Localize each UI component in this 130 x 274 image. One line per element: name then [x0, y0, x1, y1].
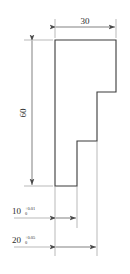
extension-lines — [14, 19, 116, 256]
engineering-drawing: 30 60 10 +0.01 0 20 +0.05 0 — [0, 0, 130, 274]
dim-tolerance-10-upper: +0.01 — [25, 206, 35, 211]
dim-label-20-group: 20 +0.05 0 — [12, 235, 36, 246]
dimension-lines — [32, 27, 115, 247]
dim-label-30: 30 — [81, 16, 91, 26]
dim-label-10-group: 10 +0.01 0 — [12, 206, 35, 217]
part-outline — [55, 40, 116, 186]
dim-label-20: 20 — [12, 235, 22, 245]
dim-tolerance-20-lower: 0 — [25, 240, 28, 245]
dim-tolerance-10-lower: 0 — [25, 211, 28, 216]
drawing-canvas: 30 60 10 +0.01 0 20 +0.05 0 — [0, 0, 130, 274]
dimension-labels: 30 60 10 +0.01 0 20 +0.05 0 — [12, 16, 90, 245]
profile-path — [55, 40, 116, 186]
dim-label-60: 60 — [18, 108, 28, 118]
dim-label-10: 10 — [12, 206, 22, 216]
dim-tolerance-20-upper: +0.05 — [25, 235, 36, 240]
